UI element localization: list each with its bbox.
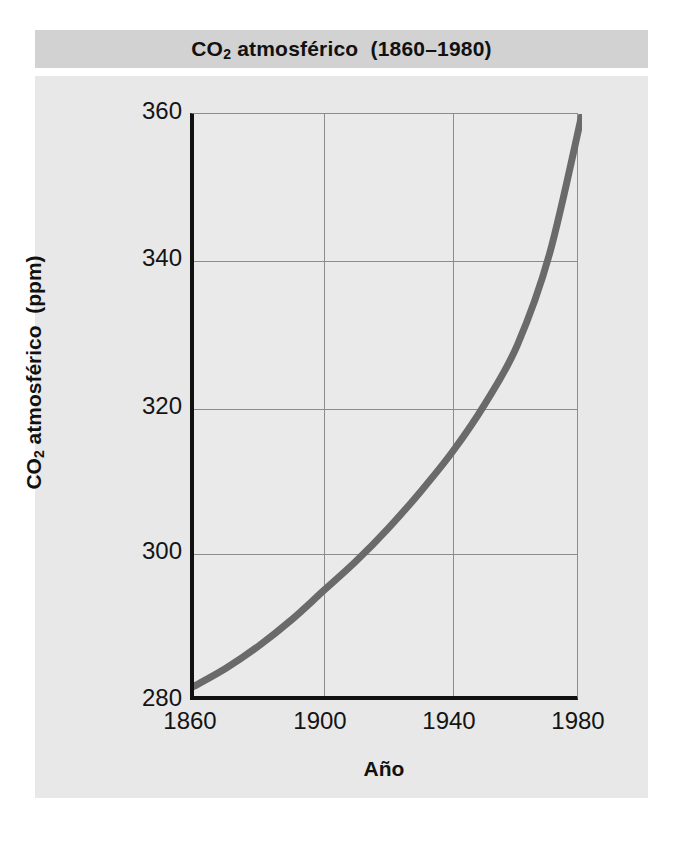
y-axis-title-rest: atmosférico (ppm) [22,255,45,450]
co2-data-curve [194,114,582,686]
x-tick-label: 1900 [265,707,375,735]
x-axis-title: Año [190,757,578,781]
figure-title-rest: atmosférico (1860–1980) [231,37,492,60]
y-tick-label: 360 [142,97,182,125]
plot-area [190,113,578,700]
x-tick-label: 1940 [394,707,504,735]
co2-curve-svg [194,114,582,701]
y-tick-label: 300 [142,537,182,565]
y-axis-title-main: CO [22,458,45,490]
figure-page: CO2 atmosférico (1860–1980) CO2 atmosfér… [0,0,680,843]
y-axis-title: CO2 atmosférico (ppm) [22,203,47,543]
y-axis-title-subscript: 2 [31,450,47,458]
figure-title-subscript: 2 [223,46,231,62]
y-tick-label: 340 [142,244,182,272]
x-tick-label: 1860 [135,707,245,735]
figure-title-main: CO [191,37,223,60]
figure-title: CO2 atmosférico (1860–1980) [191,37,492,62]
x-tick-label: 1980 [523,707,633,735]
y-tick-label: 320 [142,392,182,420]
